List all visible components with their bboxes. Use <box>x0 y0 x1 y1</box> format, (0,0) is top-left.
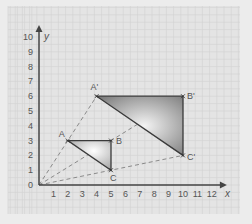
x-tick-label: 4 <box>94 189 99 199</box>
x-tick-label: 3 <box>80 189 85 199</box>
x-tick-label: 11 <box>193 189 202 199</box>
x-tick-label: 5 <box>108 189 113 199</box>
x-tick-label: 6 <box>123 189 128 199</box>
y-tick-label: 3 <box>28 136 33 146</box>
y-tick-label: 1 <box>28 165 33 175</box>
x-tick-label: 2 <box>65 189 70 199</box>
x-tick-label: 9 <box>166 189 171 199</box>
y-tick-label: 8 <box>28 62 33 72</box>
y-tick-label: 5 <box>28 106 33 116</box>
enlargement-diagram: 123456789101112012345678910xy ABCA'B'C' <box>0 0 252 224</box>
y-axis-label: y <box>43 31 50 42</box>
y-tick-label: 0 <box>28 180 33 190</box>
y-tick-label: 7 <box>28 76 33 86</box>
x-axis-label: x <box>224 188 231 199</box>
x-tick-label: 8 <box>152 189 157 199</box>
point-label: B' <box>187 91 195 101</box>
y-tick-label: 2 <box>28 150 33 160</box>
point-label: B <box>116 136 122 146</box>
point-label: A' <box>91 82 99 92</box>
point-label: A <box>59 129 65 139</box>
point-label: C' <box>187 152 195 162</box>
y-tick-label: 4 <box>28 121 33 131</box>
y-tick-label: 6 <box>28 91 33 101</box>
y-tick-label: 10 <box>23 32 33 42</box>
x-tick-label: 7 <box>137 189 142 199</box>
y-tick-label: 9 <box>28 47 33 57</box>
x-tick-label: 10 <box>178 189 188 199</box>
x-tick-label: 1 <box>51 189 56 199</box>
x-tick-label: 12 <box>207 189 217 199</box>
coordinate-plane: 123456789101112012345678910xy ABCA'B'C' <box>0 0 252 224</box>
point-label: C <box>110 173 117 183</box>
